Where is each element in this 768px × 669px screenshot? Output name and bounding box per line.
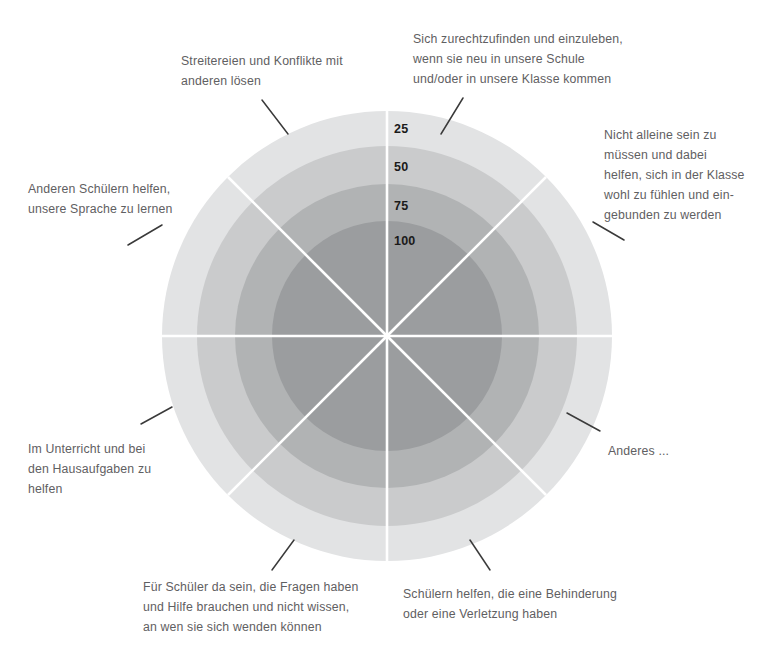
category-label-left-lower: Im Unterricht und bei den Hausaufgaben z…: [28, 440, 198, 500]
leader-line-4: [272, 540, 294, 570]
scale-label-50: 50: [394, 160, 408, 174]
category-label-left-upper: Anderen Schülern helfen, unsere Sprache …: [28, 180, 228, 220]
category-label-right-lower: Anderes ...: [608, 442, 748, 462]
spoke-group: [156, 105, 618, 567]
leader-line-5: [141, 407, 172, 424]
leader-line-3: [470, 540, 490, 570]
category-label-right-upper: Nicht alleine sein zu müssen und dabei h…: [604, 126, 754, 226]
radar-target-diagram: [0, 0, 768, 669]
scale-label-100: 100: [394, 234, 415, 248]
category-label-bottom-right: Schülern helfen, die eine Behinderung od…: [403, 585, 618, 625]
scale-label-25: 25: [394, 122, 408, 136]
category-label-top-right: Sich zurechtzufinden und einzuleben, wen…: [413, 30, 628, 90]
category-label-top-left: Streitereien und Konflikte mit anderen l…: [181, 52, 396, 92]
chart-canvas: 25 50 75 100 Sich zurechtzufinden und ei…: [0, 0, 768, 669]
scale-label-75: 75: [394, 199, 408, 213]
category-label-bottom-left: Für Schüler da sein, die Fragen haben un…: [143, 578, 418, 638]
leader-line-6: [128, 225, 162, 245]
leader-line-7: [262, 100, 288, 134]
